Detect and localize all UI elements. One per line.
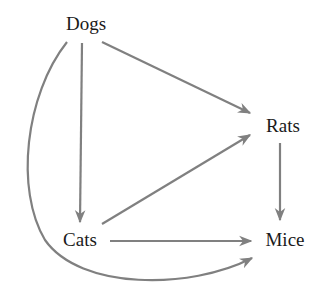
node-rats: Rats	[266, 115, 300, 136]
graph-diagram: Dogs Rats Cats Mice	[0, 0, 322, 303]
node-cats: Cats	[63, 229, 97, 250]
edge-cats-rats	[102, 135, 250, 224]
node-dogs: Dogs	[66, 13, 106, 34]
nodes: Dogs Rats Cats Mice	[63, 13, 304, 250]
edge-dogs-rats	[102, 42, 250, 113]
edge-dogs-cats	[80, 43, 82, 222]
node-mice: Mice	[265, 229, 304, 250]
edge-dogs-mice	[28, 42, 252, 280]
